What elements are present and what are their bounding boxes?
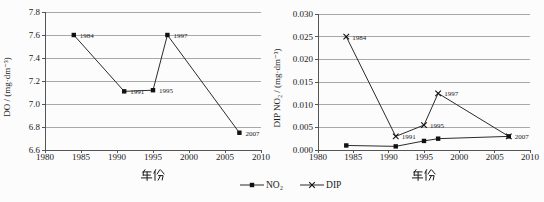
- svg-text:7.8: 7.8: [29, 7, 41, 17]
- x-line-marker-icon: [300, 180, 324, 190]
- svg-text:1995: 1995: [430, 122, 445, 130]
- svg-text:0.020: 0.020: [293, 54, 314, 64]
- svg-text:0.030: 0.030: [293, 9, 314, 19]
- svg-text:1990: 1990: [108, 152, 127, 162]
- svg-text:1984: 1984: [352, 34, 367, 42]
- svg-text:0.010: 0.010: [293, 100, 314, 110]
- svg-text:DO / (mg·dm⁻³): DO / (mg·dm⁻³): [2, 57, 12, 116]
- do-line-chart: 6.66.87.07.27.47.67.81980198519901995200…: [0, 0, 272, 202]
- svg-text:1980: 1980: [36, 152, 55, 162]
- svg-text:2000: 2000: [180, 152, 199, 162]
- svg-text:2000: 2000: [450, 152, 469, 162]
- svg-text:1985: 1985: [344, 152, 363, 162]
- chart-legend: NO₂ DIP: [240, 177, 341, 193]
- dip-no2-line-chart: 0.0000.0050.0100.0150.0200.0250.03019801…: [272, 0, 544, 202]
- legend-item-no2: NO₂: [240, 180, 283, 190]
- svg-text:0.025: 0.025: [293, 32, 314, 42]
- svg-text:1997: 1997: [173, 32, 188, 40]
- svg-text:2007: 2007: [515, 133, 530, 141]
- svg-text:2007: 2007: [245, 130, 260, 138]
- svg-text:1980: 1980: [309, 152, 328, 162]
- legend-label-dip: DIP: [326, 180, 341, 190]
- svg-text:2005: 2005: [486, 152, 505, 162]
- square-line-marker-icon: [240, 180, 264, 190]
- svg-text:2010: 2010: [521, 152, 540, 162]
- legend-label-no2: NO₂: [266, 180, 283, 190]
- svg-text:1984: 1984: [80, 32, 95, 40]
- svg-text:1985: 1985: [72, 152, 91, 162]
- dual-line-chart-figure: 6.66.87.07.27.47.67.81980198519901995200…: [0, 0, 544, 202]
- svg-text:1995: 1995: [159, 87, 174, 95]
- svg-text:2010: 2010: [252, 152, 271, 162]
- svg-text:1991: 1991: [130, 88, 145, 96]
- svg-text:1997: 1997: [444, 90, 459, 98]
- legend-item-dip: DIP: [300, 180, 341, 190]
- svg-text:7.4: 7.4: [29, 53, 41, 63]
- svg-text:1995: 1995: [144, 152, 163, 162]
- svg-text:0.005: 0.005: [293, 122, 314, 132]
- svg-text:7.2: 7.2: [29, 76, 40, 86]
- svg-text:7.0: 7.0: [29, 99, 41, 109]
- svg-text:DIP NO₂ / (mg·dm⁻³): DIP NO₂ / (mg·dm⁻³): [272, 49, 282, 128]
- svg-text:0.015: 0.015: [293, 77, 314, 87]
- svg-text:7.6: 7.6: [29, 30, 41, 40]
- svg-text:6.8: 6.8: [29, 122, 41, 132]
- svg-text:1995: 1995: [415, 152, 434, 162]
- svg-text:1990: 1990: [380, 152, 399, 162]
- svg-text:1991: 1991: [402, 133, 417, 141]
- svg-text:2005: 2005: [216, 152, 235, 162]
